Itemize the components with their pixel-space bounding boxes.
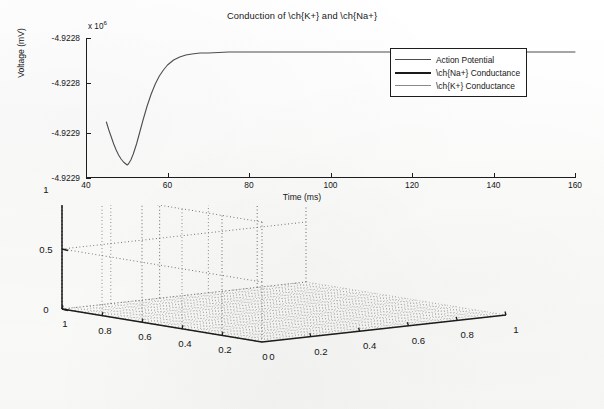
x-axis-tick bbox=[168, 173, 169, 178]
floor-grid-line bbox=[160, 298, 360, 331]
z-axis-tick-label: 0.5 bbox=[39, 244, 52, 255]
y-axis-tick bbox=[86, 83, 91, 84]
floor-grid-line bbox=[162, 299, 406, 326]
left-axis-tick-label: 1 bbox=[62, 318, 67, 329]
left-axis-tick-label: 0.4 bbox=[178, 337, 191, 348]
floor-grid-line bbox=[152, 297, 396, 324]
floor-grid-line bbox=[294, 283, 494, 316]
plot-legend[interactable]: Action Potential\ch{Na+} Conductance\ch{… bbox=[390, 48, 527, 97]
z-axis-tick-label: 1 bbox=[43, 184, 48, 195]
right-axis-tick-label: 0.2 bbox=[314, 345, 327, 356]
legend-item[interactable]: Action Potential bbox=[395, 53, 520, 66]
floor-grid-line bbox=[142, 295, 386, 322]
legend-item-label: \ch{K+} Conductance bbox=[436, 81, 515, 91]
wall-grid-horizontal bbox=[62, 205, 262, 222]
y-axis-tick-label: -4.9229 bbox=[52, 173, 80, 183]
x-axis-tick-label: 40 bbox=[81, 180, 90, 190]
y-axis-tick-label: -4.9228 bbox=[52, 33, 80, 43]
floor-grid-line bbox=[184, 296, 384, 329]
y-axis-exponent-value: 6 bbox=[103, 19, 106, 26]
floor-grid-line bbox=[212, 307, 456, 334]
legend-item[interactable]: \ch{K+} Conductance bbox=[395, 79, 520, 92]
floor-grid-line bbox=[132, 294, 376, 321]
floor-grid-line bbox=[252, 313, 496, 340]
floor-grid-line bbox=[242, 312, 486, 339]
y-axis-tick-labels: -4.9228-4.9228-4.9229-4.9229 bbox=[0, 38, 84, 178]
legend-item[interactable]: \ch{Na+} Conductance bbox=[395, 66, 520, 79]
floor-grid-line bbox=[102, 289, 346, 316]
wall-grid-horizontal bbox=[62, 222, 306, 249]
action-potential-figure: Conduction of \ch{K+} and \ch{Na+} x 106… bbox=[0, 0, 604, 205]
floor-grid-line bbox=[135, 301, 335, 334]
x-axis-tick bbox=[86, 173, 87, 178]
x-axis-tick bbox=[412, 173, 413, 178]
x-axis-tick bbox=[494, 173, 495, 178]
x-axis-tick-label: 60 bbox=[163, 180, 172, 190]
legend-line-swatch bbox=[395, 72, 431, 74]
y-axis-tick-label: -4.9229 bbox=[52, 128, 80, 138]
x-axis-tick-labels: 406080100120140160 bbox=[86, 180, 575, 194]
x-axis-tick bbox=[575, 173, 576, 178]
x-axis-tick-label: 160 bbox=[568, 180, 582, 190]
floor-grid-line bbox=[245, 289, 445, 322]
floor-grid-line bbox=[99, 305, 299, 338]
left-axis-tick-label: 0 bbox=[262, 351, 267, 362]
left-bottom-axis-spine bbox=[62, 309, 262, 342]
floor-grid-line bbox=[92, 287, 336, 314]
x-axis-tick-label: 120 bbox=[405, 180, 419, 190]
right-axis-tick-label: 0.4 bbox=[363, 340, 376, 351]
floor-grid-line bbox=[172, 297, 372, 330]
x-axis-tick-label: 140 bbox=[487, 180, 501, 190]
floor-grid-line bbox=[202, 305, 446, 332]
floor-grid-line bbox=[269, 286, 469, 319]
floor-grid-line bbox=[172, 300, 416, 327]
left-axis-tick-label: 0.6 bbox=[138, 331, 151, 342]
wall-grid-horizontal bbox=[62, 282, 306, 309]
x-axis-tick bbox=[249, 173, 250, 178]
empty-3d-axes-figure: 00.5110.80.60.40.2000.20.40.60.81 bbox=[0, 205, 604, 409]
floor-grid-line bbox=[196, 294, 396, 327]
floor-grid-line bbox=[82, 285, 326, 312]
floor-grid-line bbox=[122, 292, 366, 319]
z-axis-tick bbox=[62, 249, 68, 251]
legend-line-swatch bbox=[395, 85, 431, 86]
floor-grid-line bbox=[221, 291, 421, 324]
wall-grid-horizontal bbox=[62, 249, 262, 282]
right-axis-tick-label: 0.8 bbox=[461, 329, 474, 340]
left-axis-tick-label: 0.2 bbox=[218, 344, 231, 355]
y-axis-tick-label: -4.9228 bbox=[52, 78, 80, 88]
floor-grid-line bbox=[232, 310, 476, 337]
floor-grid-line bbox=[233, 290, 433, 323]
right-axis-tick-label: 0.6 bbox=[412, 334, 425, 345]
floor-grid-line bbox=[257, 287, 457, 320]
floor-grid-line bbox=[86, 306, 286, 339]
floor-grid-line bbox=[208, 293, 408, 326]
right-axis-tick-label: 0 bbox=[269, 351, 274, 362]
axes-3d-canvas bbox=[0, 205, 604, 409]
y-axis-tick bbox=[86, 38, 91, 39]
y-axis-tick bbox=[86, 133, 91, 134]
x-axis-tick bbox=[331, 173, 332, 178]
z-axis-tick-label: 0 bbox=[43, 304, 48, 315]
x-axis-tick-label: 100 bbox=[324, 180, 338, 190]
y-axis-exponent-prefix: x 10 bbox=[88, 22, 103, 31]
legend-line-swatch bbox=[395, 59, 431, 60]
floor-grid-line bbox=[282, 285, 482, 318]
y-axis-exponent-label: x 106 bbox=[88, 19, 107, 31]
right-axis-tick-label: 1 bbox=[513, 324, 518, 335]
floor-grid-line bbox=[123, 302, 323, 335]
legend-item-label: Action Potential bbox=[436, 55, 494, 65]
x-axis-tick-label: 80 bbox=[244, 180, 253, 190]
y-axis-tick bbox=[86, 178, 91, 179]
left-axis-tick-label: 0.8 bbox=[98, 324, 111, 335]
legend-item-label: \ch{Na+} Conductance bbox=[436, 68, 520, 78]
